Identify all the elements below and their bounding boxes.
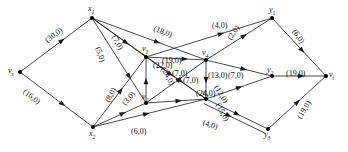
edge-y1-to-vt [272, 18, 326, 76]
network-flow-diagram: (30,0)(16,0)(7,0)(18,0)(5,0)(22,0)(8,0)(… [0, 0, 348, 152]
edge-label-v1-y1: (4,0) [212, 22, 227, 30]
arrow-x2-to-v2 [119, 112, 126, 117]
arrow-v3-to-y3 [233, 111, 240, 116]
node-vs[interactable] [18, 70, 22, 74]
arrow-v1-to-y1 [217, 32, 224, 37]
edge-label-x2-v3: (6,0) [131, 128, 146, 136]
edge-x1-to-v4 [92, 18, 206, 60]
node-label-v1: v1 [142, 45, 148, 55]
node-label-y1: y1 [269, 6, 275, 16]
node-label-v2: v2 [142, 93, 148, 103]
arrow-v1-to-v4 [181, 56, 188, 61]
node-label-v4: v4 [202, 49, 208, 59]
node-x1[interactable] [90, 16, 94, 20]
arrow-vs-to-x1 [58, 39, 65, 45]
edge-label-v1-v4: (19,0) [162, 57, 181, 65]
edge-label-v4-y2: (13,0) [208, 72, 227, 80]
arrow-v2-to-v3 [175, 99, 182, 104]
edge-v1-to-y1 [146, 18, 272, 57]
arrow-vs-to-x2 [59, 100, 66, 106]
arrow-v4-to-y1 [240, 34, 247, 40]
edge-x2-to-v2 [93, 103, 146, 127]
arrow-v2-to-v1 [144, 78, 149, 85]
edge-label-v4-v3: (7,0) [228, 72, 243, 80]
node-y1[interactable] [270, 16, 274, 20]
arrow-x1-to-v4 [153, 39, 160, 44]
node-label-vs: vs [8, 67, 14, 77]
node-vt[interactable] [324, 74, 328, 78]
node-label-y2: y2 [267, 66, 273, 76]
edge-label-v2-v3: (7,0) [183, 77, 198, 85]
arrow-x2-to-v3 [143, 112, 150, 117]
node-label-x2: x2 [89, 130, 95, 140]
arrow-v3-to-y2 [235, 86, 242, 91]
node-label-vt: vt [329, 71, 334, 81]
node-label-v3: v3 [202, 89, 208, 99]
node-v1[interactable] [144, 55, 148, 59]
edge-label-y2-vt: (19,0) [286, 70, 305, 78]
node-label-x1: x1 [88, 5, 94, 15]
node-label-y3: y3 [264, 131, 270, 141]
